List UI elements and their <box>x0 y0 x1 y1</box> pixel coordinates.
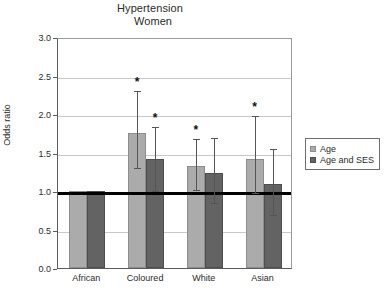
y-tick-label-0-0: 0.0 <box>21 265 51 274</box>
y-tick-label-2-0: 2.0 <box>21 111 51 120</box>
y-tick-mark <box>53 154 57 155</box>
legend-entry-age-and-ses: Age and SES <box>310 154 374 165</box>
x-category-label-coloured: Coloured <box>116 273 175 283</box>
chart-figure: Hypertension Women **** Odds ratio 0.00.… <box>0 0 388 300</box>
y-tick-label-0-5: 0.5 <box>21 227 51 236</box>
y-tick-mark <box>53 115 57 116</box>
legend-entry-age: Age <box>310 143 374 154</box>
x-category-label-white: White <box>175 273 234 283</box>
legend-label: Age <box>320 144 336 154</box>
y-tick-mark <box>53 38 57 39</box>
y-tick-mark <box>53 77 57 78</box>
x-category-label-african: African <box>57 273 116 283</box>
y-axis-title: Odds ratio <box>2 80 12 170</box>
x-category-label-asian: Asian <box>233 273 292 283</box>
y-tick-mark <box>53 192 57 193</box>
y-tick-label-1-0: 1.0 <box>21 188 51 197</box>
chart-legend: AgeAge and SES <box>305 138 380 170</box>
y-tick-mark <box>53 231 57 232</box>
y-tick-label-1-5: 1.5 <box>21 150 51 159</box>
y-tick-label-2-5: 2.5 <box>21 73 51 82</box>
legend-swatch-icon <box>310 157 316 163</box>
legend-swatch-icon <box>310 146 316 152</box>
y-tick-label-3-0: 3.0 <box>21 34 51 43</box>
y-tick-mark <box>53 269 57 270</box>
legend-label: Age and SES <box>320 155 374 165</box>
